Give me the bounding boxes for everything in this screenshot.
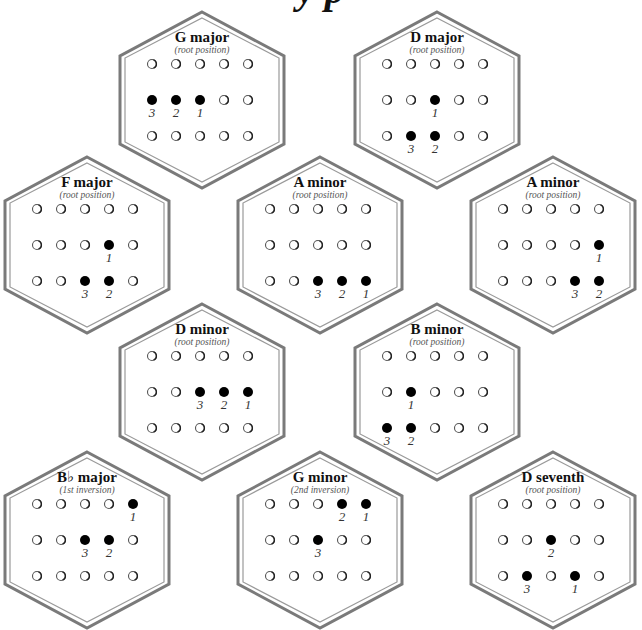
finger-number: 3 (523, 581, 531, 596)
pressed-hole-icon (104, 240, 114, 250)
finger-number: 1 (245, 397, 252, 412)
chord-name: D minor (175, 321, 229, 337)
chord-card: A minor(root position)321 (238, 157, 402, 333)
finger-number: 2 (596, 286, 603, 301)
chord-position: (root position) (60, 190, 115, 201)
pressed-hole-icon (594, 276, 604, 286)
pressed-hole-icon (313, 276, 323, 286)
chord-card: D seventh(root position)231 (471, 452, 635, 628)
pressed-hole-icon (594, 240, 604, 250)
chord-name: D seventh (522, 469, 586, 485)
chord-card: B♭ major(1st inversion)132 (5, 452, 169, 628)
finger-number: 3 (314, 286, 322, 301)
pressed-hole-icon (546, 535, 556, 545)
chord-name: B♭ major (57, 469, 117, 485)
chord-name: G major (175, 29, 230, 45)
pressed-hole-icon (382, 423, 392, 433)
finger-number: 1 (130, 509, 137, 524)
chord-card: F major(root position)132 (5, 157, 169, 333)
chord-position: (root position) (175, 45, 230, 56)
chord-card: B minor(root position)132 (355, 304, 519, 480)
pressed-hole-icon (104, 535, 114, 545)
finger-number: 2 (106, 545, 113, 560)
pressed-hole-icon (337, 276, 347, 286)
chord-position: (root position) (293, 190, 348, 201)
chord-position: (2nd inversion) (291, 485, 349, 496)
pressed-hole-icon (430, 95, 440, 105)
pressed-hole-icon (80, 276, 90, 286)
finger-number: 2 (548, 545, 555, 560)
chord-name: F major (61, 174, 113, 190)
chord-name: A minor (527, 174, 580, 190)
pressed-hole-icon (406, 423, 416, 433)
pressed-hole-icon (171, 95, 181, 105)
chord-position: (root position) (175, 337, 230, 348)
finger-number: 1 (572, 581, 579, 596)
chord-card: G minor(2nd inversion)213 (238, 452, 402, 628)
finger-number: 1 (596, 250, 603, 265)
finger-number: 1 (197, 105, 204, 120)
pressed-hole-icon (195, 95, 205, 105)
finger-number: 3 (196, 397, 204, 412)
chord-position: (root position) (526, 485, 581, 496)
chord-card: D major(root position)132 (355, 12, 519, 188)
chord-card: G major(root position)321 (120, 12, 284, 188)
finger-number: 2 (106, 286, 113, 301)
finger-number: 3 (81, 545, 89, 560)
finger-number: 1 (363, 509, 370, 524)
pressed-hole-icon (570, 571, 580, 581)
pressed-hole-icon (219, 387, 229, 397)
pressed-hole-icon (80, 535, 90, 545)
chord-name: D major (410, 29, 464, 45)
chord-position: (root position) (410, 337, 465, 348)
finger-number: 1 (408, 397, 415, 412)
pressed-hole-icon (406, 131, 416, 141)
finger-number: 1 (363, 286, 370, 301)
chord-position: (1st inversion) (59, 485, 114, 496)
pressed-hole-icon (430, 131, 440, 141)
pressed-hole-icon (243, 387, 253, 397)
pressed-hole-icon (570, 276, 580, 286)
pressed-hole-icon (313, 535, 323, 545)
finger-number: 3 (571, 286, 579, 301)
chord-name: G minor (293, 469, 348, 485)
chord-position: (root position) (410, 45, 465, 56)
finger-number: 2 (339, 509, 346, 524)
finger-number: 2 (173, 105, 180, 120)
chord-card: D minor(root position)321 (120, 304, 284, 480)
finger-number: 2 (432, 141, 439, 156)
pressed-hole-icon (195, 387, 205, 397)
pressed-hole-icon (522, 571, 532, 581)
finger-number: 3 (81, 286, 89, 301)
finger-number: 2 (339, 286, 346, 301)
pressed-hole-icon (361, 499, 371, 509)
pressed-hole-icon (147, 95, 157, 105)
chord-name: A minor (294, 174, 347, 190)
finger-number: 2 (408, 433, 415, 448)
pressed-hole-icon (361, 276, 371, 286)
pressed-hole-icon (104, 276, 114, 286)
finger-number: 3 (148, 105, 156, 120)
finger-number: 2 (221, 397, 228, 412)
chord-diagram-board: G major(root position)321D major(root po… (0, 0, 642, 630)
chord-card: A minor(root position)132 (471, 157, 635, 333)
finger-number: 3 (407, 141, 415, 156)
chord-name: B minor (411, 321, 464, 337)
chord-position: (root position) (526, 190, 581, 201)
finger-number: 1 (432, 105, 439, 120)
finger-number: 3 (314, 545, 322, 560)
finger-number: 1 (106, 250, 113, 265)
pressed-hole-icon (337, 499, 347, 509)
pressed-hole-icon (406, 387, 416, 397)
finger-number: 3 (383, 433, 391, 448)
pressed-hole-icon (128, 499, 138, 509)
